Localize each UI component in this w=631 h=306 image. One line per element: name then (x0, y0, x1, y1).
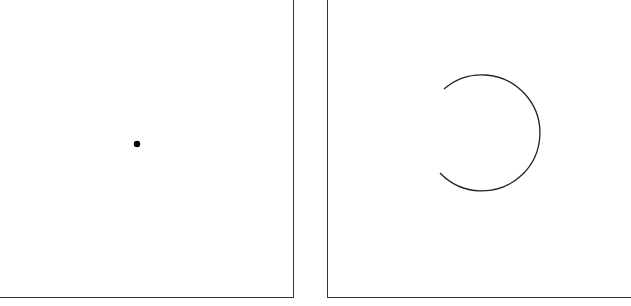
open-circle-arc (440, 75, 540, 191)
dot-marker (134, 141, 140, 147)
